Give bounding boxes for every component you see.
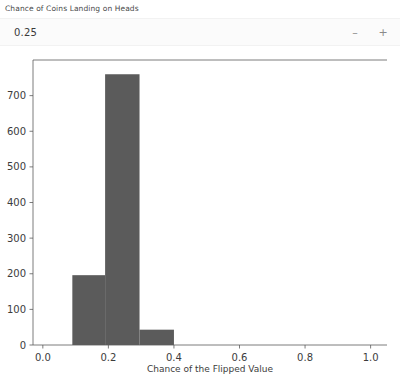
x-tick-label: 0.2 (100, 352, 116, 363)
chance-value-input[interactable]: 0.25 (0, 27, 346, 38)
histogram-bar (105, 74, 139, 345)
x-tick-label: 1.0 (363, 352, 379, 363)
histogram-plot: 0100200300400500600700 0.00.20.40.60.81.… (0, 50, 400, 375)
y-tick-label: 200 (7, 268, 26, 279)
coin-chance-widget: Chance of Coins Landing on Heads 0.25 – … (0, 0, 400, 46)
y-tick-label: 700 (7, 90, 26, 101)
increment-button[interactable]: + (374, 23, 392, 41)
y-tick-label: 0 (20, 340, 26, 351)
x-axis: 0.00.20.40.60.81.0 (35, 345, 379, 363)
x-tick-label: 0.8 (297, 352, 313, 363)
y-axis: 0100200300400500600700 (7, 90, 33, 350)
y-tick-label: 300 (7, 233, 26, 244)
histogram-bar (140, 330, 174, 345)
histogram-bar (72, 275, 105, 345)
y-tick-label: 600 (7, 126, 26, 137)
decrement-button[interactable]: – (346, 23, 364, 41)
x-tick-label: 0.4 (166, 352, 182, 363)
y-tick-label: 100 (7, 304, 26, 315)
y-tick-label: 500 (7, 161, 26, 172)
histogram-svg: 0100200300400500600700 0.00.20.40.60.81.… (0, 50, 400, 375)
bar-series (72, 74, 174, 345)
x-tick-label: 0.6 (232, 352, 248, 363)
widget-label: Chance of Coins Landing on Heads (0, 0, 400, 14)
x-tick-label: 0.0 (35, 352, 51, 363)
x-axis-title: Chance of the Flipped Value (147, 364, 274, 374)
number-stepper: 0.25 – + (0, 18, 400, 46)
y-tick-label: 400 (7, 197, 26, 208)
